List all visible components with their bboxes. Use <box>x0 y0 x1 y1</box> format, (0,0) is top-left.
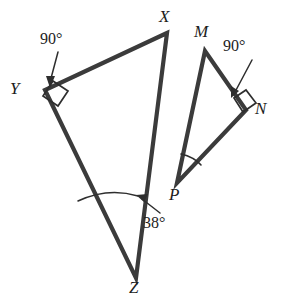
vertex-label-m: M <box>194 23 208 40</box>
geometry-figure: X Y Z M N P 90° 90° 38° <box>0 0 286 303</box>
leader-line-90-right <box>235 60 252 92</box>
vertex-label-p: P <box>169 186 179 203</box>
angle-label-90-left: 90° <box>40 31 62 47</box>
triangle-mnp-outline <box>177 51 246 183</box>
angle-label-90-right: 90° <box>223 38 245 54</box>
triangle-xyz-outline <box>45 33 167 278</box>
angle-label-38: 38° <box>143 215 165 231</box>
vertex-label-y: Y <box>10 80 19 97</box>
vertex-label-z: Z <box>129 279 138 296</box>
vertex-label-x: X <box>159 8 169 25</box>
vertex-label-n: N <box>255 100 266 117</box>
angle-arc-z <box>78 192 138 201</box>
